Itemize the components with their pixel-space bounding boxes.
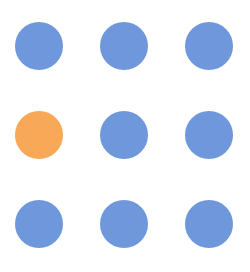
dot-grid <box>0 0 250 272</box>
dot-r1-c1[interactable] <box>100 111 148 159</box>
dot-r0-c1[interactable] <box>100 22 148 70</box>
dot-r1-c2[interactable] <box>185 111 233 159</box>
dot-r2-c0[interactable] <box>15 200 63 248</box>
dot-r1-c0-highlighted[interactable] <box>15 111 63 159</box>
dot-r2-c2[interactable] <box>185 200 233 248</box>
dot-r0-c2[interactable] <box>185 22 233 70</box>
dot-r2-c1[interactable] <box>100 200 148 248</box>
dot-r0-c0[interactable] <box>15 22 63 70</box>
